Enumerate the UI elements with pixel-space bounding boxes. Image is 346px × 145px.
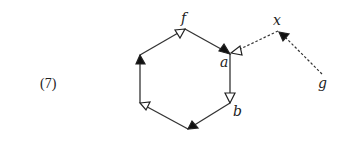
- filled-arrow-icon: [188, 121, 198, 129]
- filled-arrow-icon: [279, 32, 289, 41]
- open-arrow-icon: [225, 93, 235, 103]
- edge-g-x: [282, 34, 322, 74]
- hexagon-edges: [140, 29, 230, 129]
- open-arrow-icon: [140, 102, 150, 110]
- filled-arrow-icon: [136, 55, 145, 64]
- label-b: b: [233, 103, 242, 119]
- label-g: g: [318, 75, 327, 91]
- open-arrow-icon: [175, 29, 185, 38]
- dashed-edges: [236, 31, 322, 74]
- equation-number: (7): [40, 76, 57, 92]
- label-a: a: [220, 54, 228, 70]
- label-f: f: [180, 10, 189, 26]
- hexagon-diagram: (7) f a b x g: [0, 0, 346, 145]
- label-x: x: [273, 12, 281, 28]
- filled-arrow-icon: [219, 44, 230, 54]
- open-arrow-icon: [231, 46, 242, 55]
- edge-x-a: [236, 31, 278, 51]
